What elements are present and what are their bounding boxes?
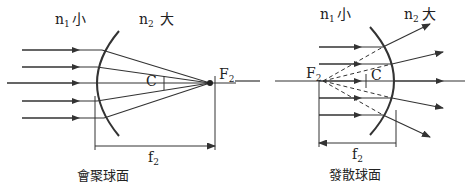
right-center-label: C	[371, 67, 382, 83]
right-focal-length-label: f2	[352, 146, 363, 164]
optics-diagram: n1小 n2大 C F2 f2 會聚球面 n1小 n2大 C F2 f2 發散球…	[0, 0, 469, 186]
left-caption: 會聚球面	[77, 168, 129, 183]
right-n2-label: n2大	[404, 6, 436, 24]
focus-point	[207, 80, 213, 86]
right-n1-label: n1小	[320, 6, 351, 24]
right-focus-label: F2	[306, 65, 321, 83]
incident-rays	[7, 50, 104, 118]
converging-surface-diagram	[7, 31, 236, 150]
diverging-surface-diagram	[235, 24, 465, 147]
left-n2-label: n2大	[139, 11, 174, 29]
left-focus-label: F2	[219, 66, 234, 84]
right-caption: 發散球面	[329, 167, 381, 182]
left-center-label: C	[146, 73, 157, 89]
left-focal-length-label: f2	[148, 149, 159, 167]
left-n1-label: n1小	[55, 11, 86, 29]
